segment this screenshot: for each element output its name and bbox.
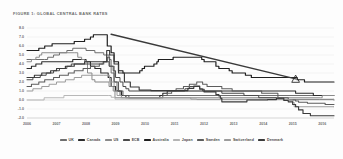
x-axis-tick-label: 2014: [259, 122, 267, 126]
legend-item-japan[interactable]: Japan: [173, 138, 192, 142]
x-axis-tick-label: 2006: [23, 122, 31, 126]
legend-item-label: Denmark: [267, 138, 283, 142]
y-axis-tick-label: 0.0: [19, 98, 24, 102]
legend-item-label: UK: [68, 138, 73, 142]
legend-item-sweden[interactable]: Sweden: [197, 138, 220, 142]
y-axis-tick-label: 2.0: [19, 80, 24, 84]
series-line-australia: [27, 35, 334, 82]
x-axis-tick-label: 2016: [318, 122, 326, 126]
legend-item-ecb[interactable]: ECB: [123, 138, 139, 142]
series-line-ecb: [27, 62, 334, 100]
figure-container: FIGURE 1: GLOBAL CENTRAL BANK RATES 8.07…: [0, 0, 343, 159]
series-line-canada: [27, 60, 334, 98]
legend-item-label: ECB: [132, 138, 140, 142]
legend-item-switzerland[interactable]: Switzerland: [224, 138, 254, 142]
y-axis-tick-label: -1.0: [18, 107, 24, 111]
legend-item-label: Switzerland: [233, 138, 254, 142]
legend-item-label: Australia: [153, 138, 169, 142]
legend-swatch-icon: [105, 139, 112, 141]
y-axis-tick-label: 8.0: [19, 26, 24, 30]
series-line-projection: [111, 34, 295, 79]
legend-swatch-icon: [197, 139, 204, 141]
legend-item-label: Japan: [182, 138, 193, 142]
legend-item-australia[interactable]: Australia: [144, 138, 169, 142]
legend-swatch-icon: [144, 139, 151, 141]
legend-swatch-icon: [78, 139, 85, 141]
legend-swatch-icon: [224, 139, 231, 141]
legend-item-uk[interactable]: UK: [60, 138, 74, 142]
x-axis-tick-label: 2013: [230, 122, 238, 126]
x-axis-tick-label: 2009: [112, 122, 120, 126]
x-axis-tick-label: 2007: [53, 122, 61, 126]
x-axis-tick-label: 2011: [171, 122, 179, 126]
x-axis-tick-label: 2012: [200, 122, 208, 126]
x-axis-tick-label: 2008: [82, 122, 90, 126]
legend-item-label: US: [113, 138, 118, 142]
chart-plot-area: 8.07.06.05.04.03.02.01.00.0-1.0-2.020062…: [0, 22, 343, 132]
legend-swatch-icon: [123, 139, 130, 141]
legend-swatch-icon: [60, 139, 67, 141]
legend-item-denmark[interactable]: Denmark: [258, 138, 283, 142]
legend-item-us[interactable]: US: [105, 138, 119, 142]
x-axis-tick-label: 2010: [141, 122, 149, 126]
legend-item-canada[interactable]: Canada: [78, 138, 100, 142]
y-axis-tick-label: 3.0: [19, 71, 24, 75]
y-axis-tick-label: 5.0: [19, 53, 24, 57]
y-axis-tick-label: 4.0: [19, 62, 24, 66]
legend-item-label: Sweden: [206, 138, 220, 142]
y-axis-tick-label: 6.0: [19, 44, 24, 48]
y-axis-tick-label: 7.0: [19, 35, 24, 39]
figure-title: FIGURE 1: GLOBAL CENTRAL BANK RATES: [13, 11, 108, 16]
legend-swatch-icon: [173, 139, 180, 141]
line-chart-svg: 8.07.06.05.04.03.02.01.00.0-1.0-2.020062…: [0, 22, 343, 132]
chart-legend: UKCanadaUSECBAustraliaJapanSwedenSwitzer…: [0, 138, 343, 142]
legend-swatch-icon: [258, 139, 265, 141]
x-axis-tick-label: 2015: [289, 122, 297, 126]
y-axis-tick-label: 1.0: [19, 89, 24, 93]
y-axis-tick-label: -2.0: [18, 116, 24, 120]
legend-item-label: Canada: [87, 138, 101, 142]
